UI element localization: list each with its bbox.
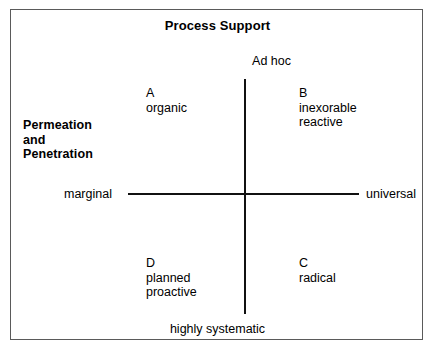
axis-label-top: Ad hoc bbox=[11, 54, 247, 68]
quadrant-a: A organic bbox=[146, 86, 187, 115]
vertical-axis-line bbox=[244, 79, 246, 314]
quadrant-c: C radical bbox=[299, 256, 336, 285]
quadrant-a-key: A bbox=[146, 86, 187, 101]
axis-label-right: universal bbox=[366, 187, 416, 201]
quadrant-d-key: D bbox=[146, 256, 197, 271]
axis-label-left: marginal bbox=[64, 187, 112, 201]
quadrant-b-line-2: reactive bbox=[299, 115, 357, 130]
quadrant-b-line-1: inexorable bbox=[299, 101, 357, 116]
figure-frame: Process Support Ad hoc highly systematic… bbox=[10, 9, 423, 340]
quadrant-d: D planned proactive bbox=[146, 256, 197, 300]
axis-label-bottom: highly systematic bbox=[11, 322, 424, 336]
axis-title-line-3: Penetration bbox=[23, 147, 93, 162]
chart-title: Process Support bbox=[11, 18, 424, 33]
axis-title-line-1: Permeation bbox=[23, 118, 93, 133]
horizontal-axis-line bbox=[128, 193, 359, 195]
quadrant-a-line-1: organic bbox=[146, 101, 187, 116]
quadrant-d-line-1: planned bbox=[146, 271, 197, 286]
quadrant-c-key: C bbox=[299, 256, 336, 271]
axis-title-permeation-and-penetration: Permeation and Penetration bbox=[23, 118, 93, 162]
quadrant-b: B inexorable reactive bbox=[299, 86, 357, 130]
axis-label-top-text: Ad hoc bbox=[252, 54, 291, 68]
axis-title-line-2: and bbox=[23, 133, 93, 148]
quadrant-c-line-1: radical bbox=[299, 271, 336, 286]
quadrant-d-line-2: proactive bbox=[146, 285, 197, 300]
quadrant-b-key: B bbox=[299, 86, 357, 101]
